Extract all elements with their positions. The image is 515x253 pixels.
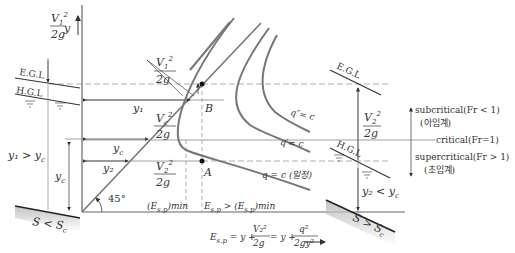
y2-label: y₂ (102, 162, 114, 175)
eq-frac1-num: V₂² (253, 224, 267, 234)
right-vh-num: V22 (364, 110, 381, 126)
supercritical-ko-label: (초임계) (424, 164, 455, 175)
right-slope-label: S > Sc (350, 211, 388, 240)
curve-q-double-prime-label: q″= c (290, 107, 316, 122)
vh2-num: V22 (156, 159, 173, 175)
vh2-den: 2g (155, 176, 170, 189)
curve-q-label: q = c (일정) (262, 170, 312, 180)
left-depth-relation: y₁ > yc (7, 149, 45, 164)
point-b-label: B (204, 102, 213, 115)
point-a-label: A (203, 166, 212, 179)
left-vh-den: 2g (50, 28, 65, 41)
left-egl-label: E.G.L (19, 67, 45, 80)
vhc-num: Vc2 (156, 111, 173, 127)
vh1-num: V12 (156, 55, 173, 71)
left-yc-label: yc (54, 170, 65, 185)
e-greater-label: Es.p > (Es.p)min (203, 201, 275, 214)
supercritical-label: supercritical(Fr > 1) (415, 152, 509, 162)
vhc-den: 2g (155, 128, 170, 141)
right-depth-relation: y₂ < yc (361, 185, 399, 200)
angle-label: 45° (108, 193, 126, 204)
subcritical-ko-label: (아임계) (420, 117, 451, 128)
eq-frac2-den: 2gy² (293, 238, 315, 248)
right-egl-label: E.G.L (335, 61, 362, 81)
left-slope-label: S < Sc (31, 215, 68, 235)
eq-frac2-num: q² (299, 224, 309, 234)
vh1-den: 2g (155, 73, 170, 86)
eq-frac1-den: 2g (252, 238, 265, 248)
eq-mid2: = y + (270, 232, 296, 242)
subcritical-label: subcritical(Fr < 1) (415, 105, 500, 115)
right-vh-den: 2g (363, 127, 378, 140)
left-hgl-label: H.G.L (16, 85, 44, 99)
yc-label: yc (112, 142, 123, 157)
equation-lhs: Es.p = y + (209, 232, 256, 245)
critical-label: critical(Fr=1) (436, 135, 499, 145)
curve-q-prime-label: q′= c (280, 137, 304, 149)
diagram-labels: y E.G.L H.G.L V12 2g y₁ > yc yc S < Sc y… (0, 0, 515, 253)
y1-label: y₁ (132, 102, 144, 115)
right-hgl-label: H.G.L (335, 139, 363, 159)
e-min-label: (Es.p)min (147, 201, 188, 214)
